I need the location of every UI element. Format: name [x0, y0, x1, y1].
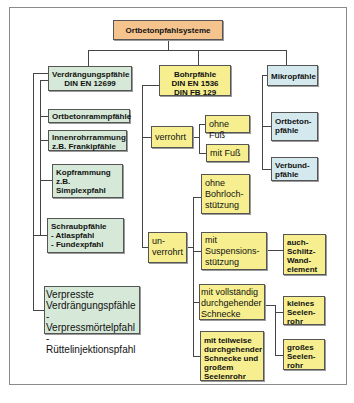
- connector: [286, 50, 287, 65]
- node-unverrohrt: un- verrohrt: [148, 232, 187, 263]
- connector: [193, 197, 201, 198]
- node-verrohrt: verrohrt: [151, 126, 193, 148]
- node-mit-vollstaendig-durchgehender-schnecke: mit vollständig durchgehender Schnecke: [199, 284, 265, 320]
- node-kopframmung: Kopframmung z.B. Simplexpfahl: [52, 164, 123, 198]
- connector: [193, 251, 201, 252]
- connector: [40, 116, 48, 117]
- root-node: Ortbetonpfahlsysteme: [113, 20, 223, 40]
- connector: [168, 40, 169, 50]
- connector: [199, 153, 206, 154]
- node-verbundpfaehle: Verbund- pfähle: [271, 157, 318, 181]
- node-mit-teilweise-durchgehender-schnecke: mit teilweise durchgehender Schnecke und…: [200, 331, 264, 381]
- connector: [265, 305, 275, 306]
- connector: [88, 50, 287, 51]
- connector: [267, 250, 283, 251]
- connector: [40, 80, 48, 81]
- connector: [142, 85, 143, 248]
- node-verpresste-verdraengungspfaehle: Verpresste Verdrängungspfähle - Verpress…: [44, 286, 140, 334]
- node-kleines-seelenrohr: kleines Seelen- rohr: [283, 296, 325, 325]
- connector: [33, 310, 44, 311]
- connector: [262, 75, 263, 169]
- node-auch-schlitzwandelement: auch- Schlitz- Wand- element: [283, 234, 326, 275]
- connector: [40, 80, 41, 236]
- connector: [275, 312, 283, 313]
- connector: [33, 73, 48, 74]
- connector: [40, 140, 48, 141]
- connector: [193, 356, 200, 357]
- connector: [33, 73, 34, 310]
- node-ortbetonrammpfaehle: Ortbetonrammpfähle: [48, 109, 130, 123]
- connector: [193, 197, 194, 357]
- connector: [262, 126, 271, 127]
- node-schraubpfaehle: Schraubpfähle - Atlaspfahl - Fundexpfahl: [47, 218, 124, 253]
- node-mikro-ortbetonpfaehle: Ortbeton- pfähle: [271, 112, 318, 141]
- connector: [199, 124, 200, 153]
- connector: [262, 169, 271, 170]
- node-grosses-seelenrohr: großes Seelen- rohr: [283, 339, 325, 370]
- node-mit-fuss: mit Fuß: [206, 144, 249, 162]
- connector: [33, 235, 47, 236]
- node-ohne-bohrlochstuetzung: ohne Bohrloch- stützung: [201, 174, 250, 214]
- node-verdraengungspfaehle: Verdrängungspfähle DIN EN 12699: [48, 66, 132, 91]
- connector: [88, 50, 89, 66]
- node-mit-suspensionsstuetzung: mit Suspensions- stützung: [201, 232, 267, 270]
- node-mikropfaehle: Mikropfähle: [267, 65, 318, 86]
- connector: [142, 137, 151, 138]
- connector: [275, 355, 283, 356]
- node-ohne-fuss: ohne Fuß: [205, 115, 250, 133]
- node-innenrohrrammung: Innenrohrrammung z.B. Frankipfähle: [48, 130, 127, 151]
- connector: [142, 85, 159, 86]
- connector: [40, 180, 52, 181]
- connector: [198, 50, 199, 65]
- node-bohrpfaehle: Bohrpfähle DIN EN 1536 DIN FB 129: [159, 65, 231, 96]
